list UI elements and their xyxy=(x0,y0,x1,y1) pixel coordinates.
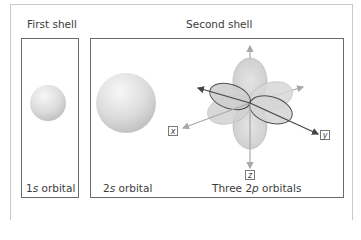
x-axis-label: x xyxy=(168,126,178,136)
2s-orbital-caption: 2s orbital xyxy=(103,182,152,194)
caption-text: orbital xyxy=(38,182,75,194)
z-axis-label: z xyxy=(245,170,255,180)
2s-sphere-icon xyxy=(96,73,156,133)
2p-orbitals-icon xyxy=(183,46,318,168)
y-axis-label: y xyxy=(320,130,330,140)
1s-sphere-icon xyxy=(30,85,66,121)
caption-text: orbitals xyxy=(259,182,302,194)
caption-number: 1 xyxy=(26,182,33,194)
caption-number: 2 xyxy=(103,182,110,194)
1s-orbital-caption: 1s orbital xyxy=(26,182,75,194)
caption-text: orbital xyxy=(115,182,152,194)
caption-subshell: p xyxy=(252,182,259,194)
2p-orbitals-caption: Three 2p orbitals xyxy=(212,182,301,194)
caption-text: Three 2 xyxy=(212,182,252,194)
